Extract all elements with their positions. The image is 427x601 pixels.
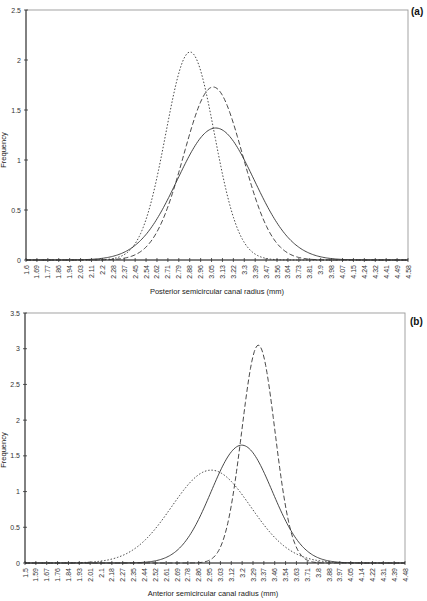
x-tick-label: 4.31	[380, 568, 387, 582]
curves-b	[25, 345, 405, 563]
x-tick-label: 3.8	[315, 568, 322, 578]
x-tick-label: 3.13	[219, 265, 226, 279]
x-axis-title-a: Posterior semicircular canal radius (mm)	[150, 287, 285, 296]
x-tick-label: 2.11	[88, 265, 95, 278]
x-tick-label: 3.2	[239, 568, 246, 578]
x-tick-label: 3.05	[208, 265, 215, 279]
x-tick-label: 3.37	[260, 568, 267, 582]
x-tick-label: 1.93	[76, 568, 83, 582]
y-tick-label: 2.5	[10, 381, 20, 388]
x-tick-label: 3.3	[241, 265, 248, 275]
x-tick-label: 4.05	[347, 568, 354, 582]
x-tick-label: 2.61	[163, 568, 170, 582]
x-tick-label: 2.45	[132, 265, 139, 279]
x-tick-label: 1.59	[32, 568, 39, 582]
x-tick-label: 3.29	[250, 568, 257, 582]
x-tick-label: 2.37	[121, 265, 128, 279]
x-tick-label: 4.15	[350, 265, 357, 279]
y-tick-label: 2	[16, 417, 20, 424]
x-tick-label: 2.95	[206, 568, 213, 582]
x-tick-label: 3.63	[293, 568, 300, 582]
x-tick-label: 3.98	[328, 265, 335, 279]
x-tick-label: 2.27	[119, 568, 126, 582]
y-tick-label: 0	[17, 257, 21, 264]
x-tick-label: 3.12	[228, 568, 235, 582]
y-tick-label: 1.5	[11, 107, 21, 114]
x-tick-label: 1.94	[66, 265, 73, 279]
x-tick-label: 1.84	[65, 568, 72, 582]
x-tick-label: 3.22	[230, 265, 237, 279]
y-axis-title-a: Frequency	[0, 132, 8, 168]
curve-solid	[25, 445, 405, 563]
x-tick-label: 2.44	[141, 568, 148, 582]
x-tick-label: 3.47	[263, 265, 270, 279]
panel-label-b: (b)	[410, 316, 423, 327]
x-tick-label: 4.14	[358, 568, 365, 582]
curve-dashed	[26, 87, 408, 260]
x-tick-label: 3.56	[274, 265, 281, 279]
x-tick-label: 4.48	[402, 568, 409, 582]
curve-dashed	[25, 345, 405, 563]
x-tick-label: 1.76	[54, 568, 61, 582]
x-tick-label: 3.46	[271, 568, 278, 582]
plot-frame-a	[26, 10, 408, 260]
y-tick-label: 3.5	[10, 310, 20, 317]
x-tick-label: 2.1	[98, 568, 105, 578]
x-tick-label: 2.69	[174, 568, 181, 582]
x-axis-a: 1.61.691.771.861.942.032.112.22.282.372.…	[23, 258, 412, 279]
x-tick-label: 3.73	[295, 265, 302, 279]
x-tick-label: 2.54	[143, 265, 150, 279]
x-tick-label: 2.71	[164, 265, 171, 279]
x-tick-label: 2.2	[99, 265, 106, 275]
figure: 00.511.522.5 1.61.691.771.861.942.032.11…	[0, 0, 427, 601]
x-tick-label: 2.28	[110, 265, 117, 279]
y-tick-label: 2	[17, 57, 21, 64]
chart-panel-b: 00.511.522.533.5 1.51.591.671.761.841.93…	[0, 310, 423, 599]
x-tick-label: 3.03	[217, 568, 224, 582]
x-tick-label: 3.54	[282, 568, 289, 582]
y-tick-label: 1.5	[10, 452, 20, 459]
x-axis-b: 1.51.591.671.761.841.932.012.12.182.272.…	[22, 561, 409, 582]
x-tick-label: 4.58	[405, 265, 412, 279]
x-tick-label: 2.62	[153, 265, 160, 279]
x-tick-label: 2.86	[195, 568, 202, 582]
x-tick-label: 3.88	[326, 568, 333, 582]
x-tick-label: 2.79	[175, 265, 182, 279]
x-tick-label: 1.67	[43, 568, 50, 582]
x-tick-label: 1.6	[23, 265, 30, 275]
plot-frame-b	[25, 313, 405, 563]
x-tick-label: 1.5	[22, 568, 29, 578]
y-axis-a: 00.511.522.5	[11, 7, 28, 264]
x-tick-label: 3.71	[304, 568, 311, 582]
x-tick-label: 2.78	[184, 568, 191, 582]
y-tick-label: 1	[17, 157, 21, 164]
x-tick-label: 4.07	[339, 265, 346, 279]
x-tick-label: 1.69	[33, 265, 40, 279]
panel-label-a: (a)	[411, 6, 423, 17]
x-tick-label: 4.39	[391, 568, 398, 582]
x-tick-label: 3.81	[306, 265, 313, 279]
x-tick-label: 4.24	[361, 265, 368, 279]
x-tick-label: 2.52	[152, 568, 159, 582]
x-tick-label: 2.35	[130, 568, 137, 582]
x-tick-label: 4.49	[394, 265, 401, 279]
x-tick-label: 1.86	[55, 265, 62, 279]
y-tick-label: 1	[16, 488, 20, 495]
x-tick-label: 2.18	[108, 568, 115, 582]
y-axis-b: 00.511.522.533.5	[10, 310, 27, 567]
x-tick-label: 2.88	[186, 265, 193, 279]
x-tick-label: 4.22	[369, 568, 376, 582]
x-tick-label: 4.41	[383, 265, 390, 279]
x-tick-label: 2.96	[197, 265, 204, 279]
curve-dotted	[26, 52, 408, 260]
curves-a	[26, 52, 408, 260]
x-axis-title-b: Anterior semicircular canal radius (mm)	[148, 589, 279, 598]
y-tick-label: 0	[16, 560, 20, 567]
x-tick-label: 3.64	[284, 265, 291, 279]
x-tick-label: 1.77	[44, 265, 51, 279]
y-tick-label: 0.5	[11, 207, 21, 214]
x-tick-label: 4.32	[372, 265, 379, 279]
y-tick-label: 2.5	[11, 7, 21, 14]
y-tick-label: 0.5	[10, 524, 20, 531]
y-tick-label: 3	[16, 345, 20, 352]
